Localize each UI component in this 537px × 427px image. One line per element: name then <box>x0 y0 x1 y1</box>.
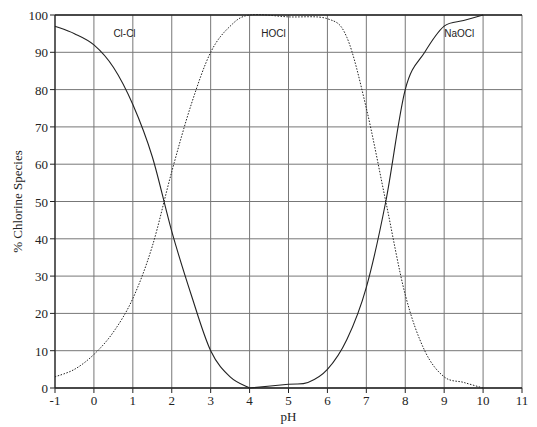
y-tick-label: 100 <box>29 8 49 23</box>
x-tick-label: -1 <box>50 393 61 408</box>
y-tick-label: 80 <box>35 83 48 98</box>
y-tick-label: 50 <box>35 195 48 210</box>
x-tick-label: 9 <box>441 393 448 408</box>
x-tick-label: 5 <box>285 393 292 408</box>
x-tick-label: 7 <box>363 393 370 408</box>
x-tick-label: 2 <box>169 393 176 408</box>
series-label: Cl-Cl <box>113 28 135 39</box>
x-tick-label: 6 <box>324 393 331 408</box>
x-tick-label: 1 <box>130 393 137 408</box>
series-label: NaOCl <box>444 28 474 39</box>
x-tick-label: 4 <box>246 393 253 408</box>
x-axis-label: pH <box>281 409 297 424</box>
series-label: HOCl <box>261 28 285 39</box>
y-tick-label: 20 <box>35 306 48 321</box>
series-clcl-line <box>55 26 250 388</box>
y-tick-label: 10 <box>35 344 48 359</box>
x-tick-label: 0 <box>91 393 98 408</box>
y-tick-label: 70 <box>35 120 48 135</box>
x-tick-label: 8 <box>402 393 409 408</box>
y-axis-label: % Chlorine Species <box>10 150 25 253</box>
x-tick-label: 11 <box>516 393 529 408</box>
y-tick-label: 0 <box>42 381 49 396</box>
y-tick-label: 90 <box>35 45 48 60</box>
y-tick-label: 30 <box>35 269 48 284</box>
y-tick-label: 40 <box>35 232 48 247</box>
y-tick-label: 60 <box>35 157 48 172</box>
x-tick-label: 3 <box>207 393 214 408</box>
x-tick-label: 10 <box>477 393 490 408</box>
chart: -1012345678910110102030405060708090100Cl… <box>0 0 537 427</box>
